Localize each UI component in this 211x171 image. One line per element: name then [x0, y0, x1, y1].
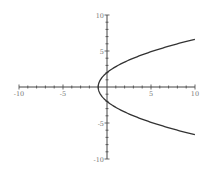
- y-tick-label: 5: [100, 48, 104, 56]
- x-tick-label: 10: [191, 90, 199, 98]
- x-tick-label: 5: [149, 90, 153, 98]
- y-tick-label: -5: [98, 120, 104, 128]
- parabola-plot: -10-5510105-5-10: [0, 0, 211, 171]
- y-tick-label: -10: [94, 156, 104, 164]
- x-tick-label: -10: [14, 90, 24, 98]
- x-tick-label: -5: [60, 90, 66, 98]
- y-tick-label: 10: [96, 12, 104, 20]
